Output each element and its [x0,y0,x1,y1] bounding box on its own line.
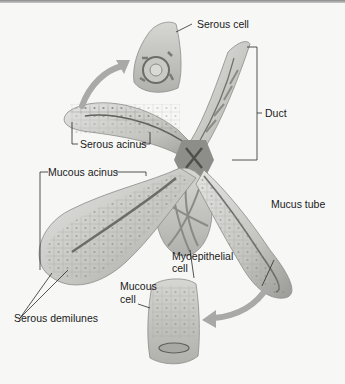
serous-cell-detail [134,22,181,92]
duct-upper [190,42,250,148]
label-duct: Duct [265,107,287,119]
salivary-gland-illustration [0,0,345,384]
label-myoepithelial-line2: cell [172,262,188,274]
label-mucus-tube: Mucus tube [271,198,325,210]
label-serous-demilunes: Serous demilunes [14,312,98,324]
label-mucous-acinus: Mucous acinus [48,166,118,178]
label-mucous-cell-line1: Mucous [120,280,157,292]
label-serous-cell: Serous cell [197,18,249,30]
mucus-tube-shape [196,170,292,298]
label-mucous-cell-line2: cell [120,293,136,305]
arrow-to-mucous-cell [214,286,268,318]
label-myoepithelial-line1: Myoepithelial [172,250,233,262]
serous-acinus-shape [64,103,196,160]
label-serous-acinus: Serous acinus [80,138,147,150]
arrow-to-serous-cell [82,66,122,106]
